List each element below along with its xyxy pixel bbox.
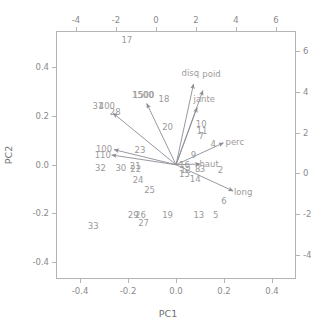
top-tick-label: 4	[233, 15, 238, 25]
right-tick-label: 2	[303, 128, 308, 138]
x-tick-label: 0.2	[217, 286, 231, 296]
biplot-figure: 1718150031282010117423932302122161215832…	[0, 0, 336, 329]
observation-point: 32	[95, 163, 106, 173]
right-tick-mark	[296, 92, 300, 93]
observation-point: 18	[159, 94, 170, 104]
variable-label: haut	[199, 159, 218, 169]
right-tick-label: -2	[303, 209, 311, 219]
variable-label: disq	[182, 68, 200, 78]
variable-label: long	[234, 187, 252, 197]
variable-label: poid	[202, 69, 220, 79]
y-tick-mark	[52, 262, 56, 263]
x-tick-mark	[272, 279, 273, 283]
variable-label: 110	[95, 150, 111, 160]
top-tick-label: -2	[112, 15, 120, 25]
top-tick-mark	[236, 27, 237, 31]
y-tick-label: 0.2	[35, 111, 49, 121]
observation-point: 25	[144, 185, 155, 195]
observation-point: 15	[179, 169, 190, 179]
y-tick-label: 0.4	[35, 62, 49, 72]
observation-point: 14	[190, 174, 201, 184]
top-tick-mark	[116, 27, 117, 31]
top-tick-mark	[196, 27, 197, 31]
right-tick-label: -4	[303, 250, 311, 260]
observation-point: 6	[221, 196, 226, 206]
x-tick-mark	[224, 279, 225, 283]
y-tick-label: -0.4	[32, 257, 49, 267]
right-tick-label: 0	[303, 168, 308, 178]
x-tick-label: -0.2	[120, 286, 137, 296]
right-tick-label: 6	[303, 46, 308, 56]
observation-point: 33	[88, 221, 99, 231]
observation-point: 17	[121, 35, 132, 45]
observation-point: 7	[198, 131, 203, 141]
variable-label: 1500	[132, 90, 154, 100]
variable-arrows-layer	[0, 0, 336, 329]
observation-point: 9	[191, 150, 196, 160]
top-tick-label: 2	[193, 15, 198, 25]
right-tick-mark	[296, 133, 300, 134]
right-tick-label: 4	[303, 87, 308, 97]
observation-point: 5	[213, 210, 218, 220]
observation-point: 4	[210, 139, 215, 149]
variable-arrow	[147, 103, 176, 164]
variable-label: 400	[99, 101, 115, 111]
x-tick-label: 0.0	[169, 286, 183, 296]
top-tick-label: -4	[72, 15, 80, 25]
right-tick-mark	[296, 173, 300, 174]
y-tick-label: -0.2	[32, 208, 49, 218]
y-tick-mark	[52, 67, 56, 68]
observation-point: 22	[130, 164, 141, 174]
y-tick-mark	[52, 213, 56, 214]
right-tick-mark	[296, 214, 300, 215]
observation-point: 19	[162, 210, 173, 220]
top-tick-mark	[276, 27, 277, 31]
observation-point: 20	[162, 122, 173, 132]
x-axis-title: PC1	[159, 308, 177, 319]
observation-point: 27	[138, 218, 149, 228]
right-tick-mark	[296, 255, 300, 256]
x-tick-mark	[80, 279, 81, 283]
x-tick-label: -0.4	[72, 286, 89, 296]
top-tick-mark	[156, 27, 157, 31]
x-tick-mark	[128, 279, 129, 283]
x-tick-mark	[176, 279, 177, 283]
top-tick-mark	[76, 27, 77, 31]
y-tick-mark	[52, 116, 56, 117]
variable-label: jante	[194, 94, 216, 104]
y-tick-label: 0.0	[35, 160, 49, 170]
variable-label: perc	[225, 137, 244, 147]
y-tick-mark	[52, 165, 56, 166]
observation-point: 23	[135, 145, 146, 155]
y-axis-title: PC2	[3, 146, 14, 164]
right-tick-mark	[296, 51, 300, 52]
top-tick-label: 6	[273, 15, 278, 25]
observation-point: 13	[193, 210, 204, 220]
x-tick-label: 0.4	[265, 286, 279, 296]
top-tick-label: 0	[153, 15, 158, 25]
observation-point: 24	[133, 175, 144, 185]
observation-point: 30	[115, 163, 126, 173]
